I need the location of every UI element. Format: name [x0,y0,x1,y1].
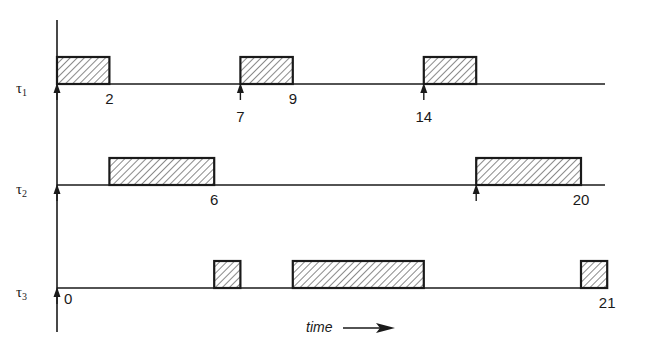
origin-label: 0 [64,290,72,307]
execution-block [214,261,240,288]
time-arrow-icon [343,323,395,333]
time-tick-label: 7 [236,108,244,125]
time-tick-label: 20 [573,191,590,208]
time-tick-label: 6 [210,191,218,208]
execution-block [293,261,424,288]
arrival-arrow-icon [473,184,480,201]
execution-block [581,261,607,288]
time-tick-label: 14 [415,108,432,125]
time-axis-label: time [306,319,333,335]
task-label: τ3 [16,284,27,302]
arrival-arrow-icon [420,83,427,100]
execution-block [109,158,214,185]
execution-block [424,57,476,84]
task-label: τ2 [16,181,27,199]
execution-block [240,57,292,84]
task-row-2: τ2620 [16,158,605,208]
arrival-arrow-icon [54,287,61,304]
arrival-arrow-icon [237,83,244,100]
time-tick-label: 2 [105,90,113,107]
task-label: τ1 [16,80,27,98]
time-tick-label: 9 [289,90,297,107]
execution-block [476,158,581,185]
schedule-diagram: τ129714τ2620τ321 0 time [0,0,649,354]
execution-block [57,57,109,84]
arrival-arrow-icon [54,83,61,100]
time-tick-label: 21 [599,294,616,311]
task-row-1: τ129714 [16,57,605,125]
arrival-arrow-icon [54,184,61,201]
task-row-3: τ321 [16,261,616,311]
